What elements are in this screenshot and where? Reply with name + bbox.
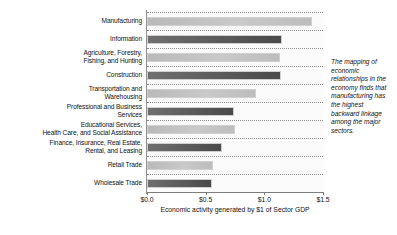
x-tick xyxy=(206,192,207,195)
x-tick xyxy=(323,192,324,195)
category-label-line: Rental, and Leasing xyxy=(0,147,142,155)
category-label: Educational Services,Health Care, and So… xyxy=(0,121,142,136)
x-tick xyxy=(264,192,265,195)
chart-annotation: The mapping of economic relationships in… xyxy=(331,58,393,135)
category-label-line: Manufacturing xyxy=(0,17,142,25)
bar xyxy=(147,143,222,152)
category-label: Finance, Insurance, Real Estate,Rental, … xyxy=(0,139,142,154)
category-label-line: Fishing, and Hunting xyxy=(0,57,142,65)
category-label: Agriculture, Forestry,Fishing, and Hunti… xyxy=(0,49,142,64)
bar xyxy=(147,17,312,26)
category-label-line: Retail Trade xyxy=(0,161,142,169)
x-tick-label: $0.0 xyxy=(140,196,153,203)
category-label: Construction xyxy=(0,71,142,79)
category-label-line: Transportation and xyxy=(0,85,142,93)
y-axis-category-labels: ManufacturingInformationAgriculture, For… xyxy=(0,12,146,192)
category-label-line: Construction xyxy=(0,71,142,79)
category-label-line: Wholesale Trade xyxy=(0,179,142,187)
bar-series xyxy=(147,12,323,192)
x-tick-label: $1.5 xyxy=(316,196,329,203)
category-label: Transportation andWarehousing xyxy=(0,85,142,100)
bar xyxy=(147,161,213,170)
bar xyxy=(147,89,256,98)
bar xyxy=(147,125,235,134)
category-label: Professional and BusinessServices xyxy=(0,103,142,118)
category-label: Wholesale Trade xyxy=(0,179,142,187)
category-label-line: Agriculture, Forestry, xyxy=(0,49,142,57)
category-label: Information xyxy=(0,35,142,43)
x-tick-label: $0.5 xyxy=(199,196,212,203)
category-label-line: Professional and Business xyxy=(0,103,142,111)
bar xyxy=(147,179,212,188)
category-label-line: Information xyxy=(0,35,142,43)
x-axis-title: Economic activity generated by $1 of Sec… xyxy=(160,206,309,213)
bar xyxy=(147,35,282,44)
bar xyxy=(147,71,281,80)
x-tick xyxy=(147,192,148,195)
x-axis-line xyxy=(147,192,323,193)
bar xyxy=(147,107,234,116)
x-tick-label: $1.0 xyxy=(258,196,271,203)
category-label: Manufacturing xyxy=(0,17,142,25)
bar-chart: ManufacturingInformationAgriculture, For… xyxy=(0,0,397,235)
category-label-line: Health Care, and Social Assistance xyxy=(0,129,142,137)
category-label-line: Finance, Insurance, Real Estate, xyxy=(0,139,142,147)
x-axis: Economic activity generated by $1 of Sec… xyxy=(147,192,323,222)
category-label-line: Educational Services, xyxy=(0,121,142,129)
category-label: Retail Trade xyxy=(0,161,142,169)
category-label-line: Services xyxy=(0,111,142,119)
category-label-line: Warehousing xyxy=(0,93,142,101)
plot-area xyxy=(147,12,323,192)
bar xyxy=(147,53,280,62)
